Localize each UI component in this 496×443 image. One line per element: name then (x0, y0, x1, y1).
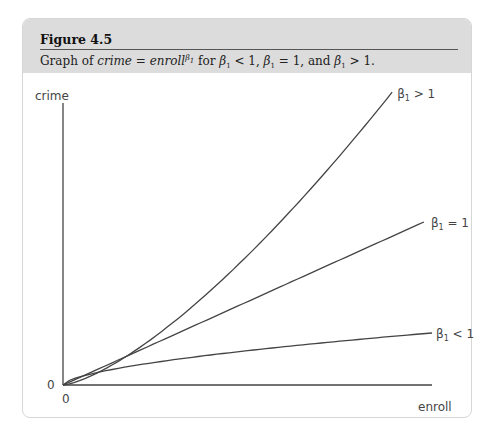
series-label-1: β1 > 1 (397, 87, 435, 103)
series-label-2: β1 = 1 (431, 216, 469, 232)
series-line-2 (63, 222, 424, 385)
chart-svg: crime enroll 0 0 β1 > 1β1 = 1β1 < 1 (0, 0, 496, 443)
series-line-3 (63, 333, 432, 385)
series-relation: < 1 (449, 327, 474, 341)
x-tick-label-0: 0 (62, 392, 70, 406)
y-tick-label-0: 0 (47, 378, 55, 392)
beta-symbol: β (436, 327, 444, 341)
series-relation: = 1 (444, 216, 469, 230)
series-label-3: β1 < 1 (436, 327, 474, 343)
beta-symbol: β (397, 87, 405, 101)
series-relation: > 1 (410, 87, 435, 101)
y-axis-label: crime (35, 89, 69, 103)
series-group: β1 > 1β1 = 1β1 < 1 (63, 87, 474, 385)
beta-symbol: β (431, 216, 439, 230)
x-axis-label: enroll (418, 400, 452, 414)
